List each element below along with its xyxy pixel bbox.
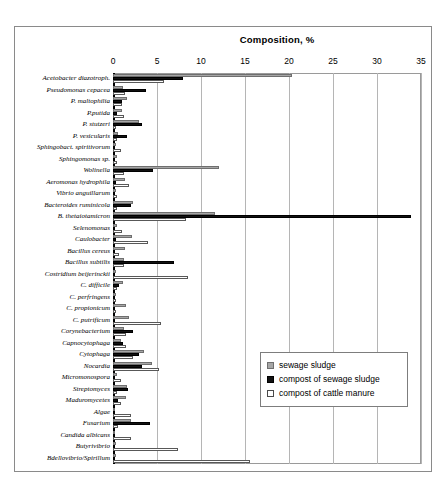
- category-label: Nocardia: [0, 362, 110, 370]
- bar-compost-manure: [113, 425, 118, 428]
- bar-compost-manure: [113, 138, 117, 141]
- category-label: Candida albicans: [0, 431, 110, 439]
- bar-compost-manure: [113, 299, 116, 302]
- bar-compost-manure: [113, 184, 129, 187]
- bar-compost-manure: [113, 253, 119, 256]
- bar-compost-manure: [113, 391, 117, 394]
- bar-compost-manure: [113, 195, 117, 198]
- chart-title: Composition, %: [0, 34, 446, 45]
- bar-compost-manure: [113, 368, 159, 371]
- category-label: Aeromonas hydrophila: [0, 178, 110, 186]
- category-label: P. vesicularis: [0, 132, 110, 140]
- bar-compost-sludge: [113, 422, 150, 425]
- category-label: B. thetaiotamicron: [0, 212, 110, 220]
- bar-compost-manure: [113, 230, 122, 233]
- category-label: Micromonospora: [0, 373, 110, 381]
- category-label: P. stutzeri: [0, 120, 110, 128]
- bar-compost-manure: [113, 149, 121, 152]
- category-label: P.putida: [0, 109, 110, 117]
- x-tick-label: 15: [240, 56, 249, 66]
- bar-compost-manure: [113, 322, 161, 325]
- category-label: C. difficile: [0, 281, 110, 289]
- bar-compost-manure: [113, 161, 117, 164]
- gridline: [421, 73, 422, 464]
- bar-compost-manure: [113, 80, 164, 83]
- category-label: Maduromycetes: [0, 396, 110, 404]
- x-tick-label: 20: [284, 56, 293, 66]
- bar-compost-manure: [113, 241, 148, 244]
- legend-swatch-icon: [267, 362, 274, 369]
- legend-item: compost of cattle manure: [267, 386, 401, 400]
- category-label: Pseudomonas cepacea: [0, 86, 110, 94]
- category-label: Caulobacter: [0, 235, 110, 243]
- bar-compost-manure: [113, 207, 117, 210]
- bar-compost-manure: [113, 379, 121, 382]
- x-tick-label: 25: [328, 56, 337, 66]
- category-label: Costridium beijerinckii: [0, 270, 110, 278]
- category-label: Sphingobact. spiritivorum: [0, 143, 110, 151]
- legend-swatch-icon: [267, 390, 274, 397]
- category-label: P. maltophilia: [0, 97, 110, 105]
- bar-compost-manure: [113, 103, 122, 106]
- x-tick-label: 5: [155, 56, 160, 66]
- bar-compost-manure: [113, 115, 124, 118]
- gridline: [201, 73, 202, 464]
- bar-compost-manure: [113, 92, 125, 95]
- category-label: Vibrio anguillarum: [0, 189, 110, 197]
- legend-swatch-icon: [267, 376, 274, 383]
- category-label: Butyrivibrio: [0, 442, 110, 450]
- chart-figure: Composition, % 05101520253035 Acetobacte…: [0, 0, 446, 495]
- x-tick-label: 30: [372, 56, 381, 66]
- category-label: Algae: [0, 408, 110, 416]
- bar-compost-manure: [113, 126, 116, 129]
- category-label: C. propionicum: [0, 304, 110, 312]
- category-label: Corynebacterium: [0, 327, 110, 335]
- category-label: Wolinella: [0, 166, 110, 174]
- bar-sludge: [113, 235, 132, 238]
- legend-label: compost of cattle manure: [279, 388, 374, 398]
- bar-compost-manure: [113, 172, 124, 175]
- bar-compost-manure: [113, 333, 126, 336]
- bar-compost-manure: [113, 287, 117, 290]
- legend-item: sewage sludge: [267, 358, 401, 372]
- bar-compost-manure: [113, 460, 250, 463]
- bar-compost-manure: [113, 310, 116, 313]
- category-label: C. putrificum: [0, 316, 110, 324]
- category-label: Acetobacter diazotroph.: [0, 74, 110, 82]
- chart-legend: sewage sludgecompost of sewage sludgecom…: [260, 352, 408, 407]
- category-label: Bacillus subtilis: [0, 258, 110, 266]
- bar-sludge: [113, 316, 129, 319]
- category-label: Bacillus cereus: [0, 247, 110, 255]
- category-label: Sphingomonas sp.: [0, 155, 110, 163]
- category-label: Selenomonas: [0, 224, 110, 232]
- bar-compost-manure: [113, 414, 131, 417]
- bar-compost-manure: [113, 356, 133, 359]
- category-label: Streptomyces: [0, 385, 110, 393]
- bar-compost-manure: [113, 437, 131, 440]
- legend-label: sewage sludge: [279, 360, 336, 370]
- bar-compost-sludge: [113, 123, 142, 126]
- legend-label: compost of sewage sludge: [279, 374, 380, 384]
- category-label: Bdellovibrio/Spirillum: [0, 454, 110, 462]
- category-label: Bacteroides ruminicola: [0, 201, 110, 209]
- category-label: Fusarium: [0, 419, 110, 427]
- x-tick-label: 35: [416, 56, 425, 66]
- gridline: [157, 73, 158, 464]
- category-label: Capnocytophaga: [0, 339, 110, 347]
- bar-compost-manure: [113, 402, 121, 405]
- gridline: [245, 73, 246, 464]
- legend-item: compost of sewage sludge: [267, 372, 401, 386]
- bar-compost-manure: [113, 264, 124, 267]
- bar-compost-manure: [113, 276, 188, 279]
- bar-compost-manure: [113, 345, 126, 348]
- category-label: Cytophaga: [0, 350, 110, 358]
- bar-compost-manure: [113, 448, 178, 451]
- bar-compost-manure: [113, 218, 186, 221]
- x-tick-label: 0: [111, 56, 116, 66]
- category-label: C. perfringens: [0, 293, 110, 301]
- x-tick-label: 10: [196, 56, 205, 66]
